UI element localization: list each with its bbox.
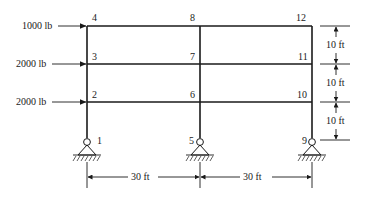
- node-label-1: 1: [97, 135, 102, 146]
- node-label-5: 5: [189, 135, 194, 146]
- width-label-bay-2: 30 ft: [243, 171, 262, 182]
- node-label-3: 3: [92, 51, 97, 62]
- node-label-9: 9: [302, 135, 307, 146]
- node-label-4: 4: [92, 12, 97, 23]
- width-label-bay-1: 30 ft: [131, 171, 150, 182]
- node-label-11: 11: [298, 51, 308, 62]
- frame-diagram: 1000 lb 2000 lb 2000 lb 4 3 2 1 8 7 6 5 …: [0, 0, 367, 198]
- height-label-story-2: 10 ft: [326, 77, 345, 88]
- node-label-7: 7: [190, 51, 195, 62]
- node-label-8: 8: [190, 12, 195, 23]
- node-label-10: 10: [297, 89, 307, 100]
- width-dimensions: [87, 162, 312, 188]
- node-label-6: 6: [190, 89, 195, 100]
- load-label-2000-upper: 2000 lb: [16, 58, 46, 69]
- load-label-2000-lower: 2000 lb: [16, 96, 46, 107]
- height-label-story-3: 10 ft: [326, 39, 345, 50]
- height-label-story-1: 10 ft: [326, 115, 345, 126]
- load-label-1000: 1000 lb: [22, 20, 52, 31]
- node-label-12: 12: [296, 12, 306, 23]
- node-label-2: 2: [92, 89, 97, 100]
